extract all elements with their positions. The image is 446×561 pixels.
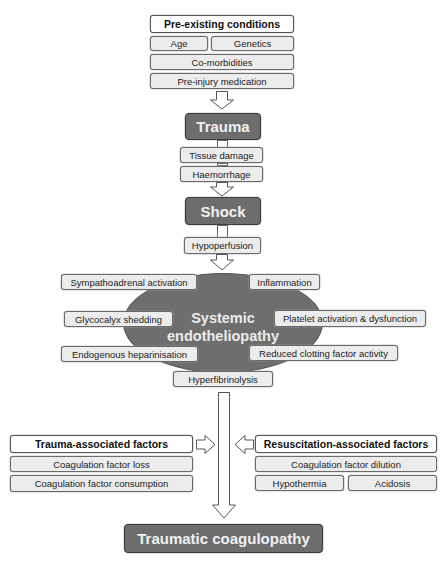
- coagulation-factor-loss-box: Coagulation factor loss: [10, 456, 193, 472]
- genetics-box: Genetics: [211, 36, 294, 51]
- endogenous-heparinisation-box: Endogenous heparinisation: [61, 346, 198, 362]
- acidosis-box: Acidosis: [348, 475, 437, 491]
- down-arrow-icon: [209, 254, 235, 271]
- long-down-arrow-icon: [211, 392, 237, 519]
- sympathoadrenal-activation-box: Sympathoadrenal activation: [61, 274, 197, 290]
- right-arrow-icon: [196, 435, 216, 454]
- inflammation-box: Inflammation: [249, 274, 320, 290]
- hypoperfusion-box: Hypoperfusion: [184, 237, 261, 254]
- traumatic-coagulopathy-box: Traumatic coagulopathy: [124, 524, 323, 553]
- down-arrow-icon: [209, 182, 235, 197]
- platelet-activation-box: Platelet activation & dysfunction: [274, 310, 426, 327]
- left-arrow-icon: [234, 435, 254, 454]
- hyperfibrinolysis-box: Hyperfibrinolysis: [173, 371, 273, 387]
- pre-existing-conditions-header: Pre-existing conditions: [150, 15, 294, 33]
- down-arrow-icon: [209, 91, 235, 110]
- coagulation-factor-dilution-box: Coagulation factor dilution: [255, 456, 437, 472]
- haemorrhage-box: Haemorrhage: [180, 166, 263, 182]
- trauma-associated-factors-header: Trauma-associated factors: [10, 435, 193, 453]
- reduced-clotting-factor-box: Reduced clotting factor activity: [249, 345, 398, 361]
- title-line-2: endotheliopathy: [123, 327, 323, 345]
- coagulation-factor-consumption-box: Coagulation factor consumption: [10, 475, 193, 492]
- hypothermia-box: Hypothermia: [255, 475, 344, 491]
- trauma-box: Trauma: [185, 113, 261, 140]
- glycocalyx-shedding-box: Glycocalyx shedding: [64, 311, 173, 327]
- comorbidities-box: Co-morbidities: [150, 54, 294, 70]
- resuscitation-associated-factors-header: Resuscitation-associated factors: [255, 435, 437, 453]
- age-box: Age: [150, 36, 208, 51]
- shock-box: Shock: [185, 197, 261, 225]
- pre-injury-medication-box: Pre-injury medication: [150, 73, 294, 89]
- tissue-damage-box: Tissue damage: [180, 147, 263, 163]
